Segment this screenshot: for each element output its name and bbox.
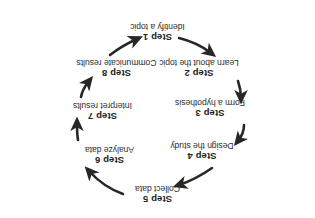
step-title: Step 5	[0, 193, 315, 204]
step-node-step5: Step 5 Collect data	[0, 183, 315, 204]
step-node-step8: Step 8 Communicate results	[0, 57, 233, 78]
step-description: Analyze data	[0, 144, 219, 154]
step-description: Communicate results	[0, 57, 233, 67]
step-title: Step 1	[0, 31, 315, 42]
step-description: Interpret results	[0, 100, 205, 110]
research-cycle-diagram: Step 1 Identify a topic Step 2 Learn abo…	[0, 0, 315, 218]
step-title: Step 7	[0, 110, 205, 121]
step-description: Identify a topic	[0, 21, 315, 31]
arrow-step7-step8	[81, 81, 89, 97]
step-description: Collect data	[0, 183, 315, 193]
step-title: Step 8	[0, 67, 233, 78]
arrow-step3-step4	[238, 125, 244, 141]
step-title: Step 6	[0, 154, 219, 165]
step-node-step1: Step 1 Identify a topic	[0, 21, 315, 42]
step-node-step6: Step 6 Analyze data	[0, 144, 219, 165]
arrow-step6-step7	[77, 123, 78, 140]
step-node-step7: Step 7 Interpret results	[0, 100, 205, 121]
arrow-step2-step3	[238, 81, 241, 98]
